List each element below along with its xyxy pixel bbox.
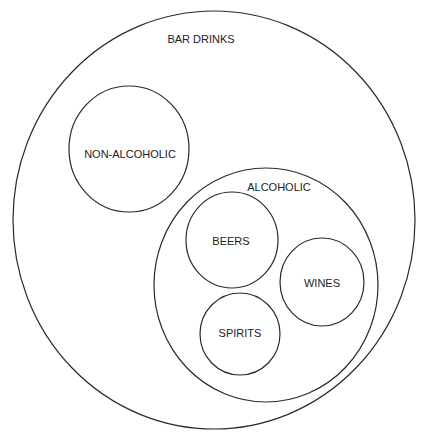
set-beers: BEERS — [186, 192, 278, 288]
spirits-label: SPIRITS — [219, 327, 262, 339]
venn-diagram: BAR DRINKS NON-ALCOHOLIC ALCOHOLIC BEERS… — [0, 0, 424, 434]
bar-drinks-circle — [13, 11, 415, 429]
set-spirits: SPIRITS — [200, 293, 280, 375]
non-alcoholic-label: NON-ALCOHOLIC — [84, 148, 176, 160]
set-wines: WINES — [280, 238, 364, 326]
beers-label: BEERS — [212, 235, 249, 247]
alcoholic-label: ALCOHOLIC — [247, 181, 311, 193]
set-bar-drinks: BAR DRINKS — [13, 11, 415, 429]
set-alcoholic: ALCOHOLIC — [154, 168, 378, 402]
wines-label: WINES — [304, 277, 340, 289]
alcoholic-circle — [154, 168, 378, 402]
set-non-alcoholic: NON-ALCOHOLIC — [69, 86, 189, 212]
bar-drinks-label: BAR DRINKS — [167, 33, 234, 45]
